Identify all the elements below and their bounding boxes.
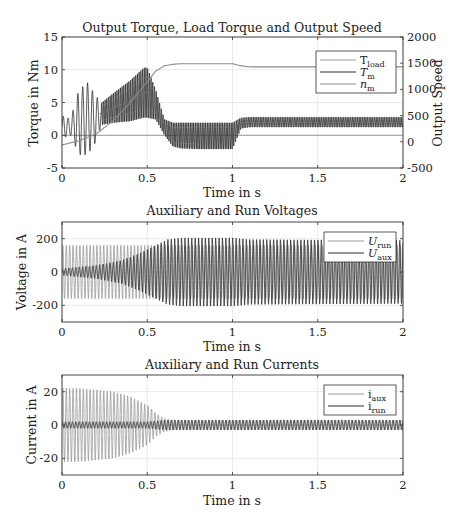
x-tick-label: 2 (399, 325, 406, 339)
y-tick-label: 0 (51, 128, 58, 142)
legend: iauxirun (324, 385, 396, 415)
x-axis-label: Time in s (203, 493, 261, 508)
y-right-tick-label: -500 (407, 161, 433, 175)
y-tick-label: -200 (32, 298, 58, 312)
x-axis-label: Time in s (203, 339, 261, 354)
x-tick-label: 1.5 (309, 171, 327, 185)
x-tick-label: 2 (399, 478, 406, 492)
y-tick-label: 20 (43, 385, 58, 399)
y-right-tick-label: 500 (407, 109, 429, 123)
x-tick-label: 0.5 (138, 171, 156, 185)
x-tick-label: 1.5 (309, 478, 327, 492)
figure: Output Torque, Load Torque and Output Sp… (0, 0, 458, 521)
current-panel: Auxiliary and Run Currents 00.511.52-200… (24, 357, 407, 508)
y-tick-label: 15 (43, 30, 58, 44)
x-tick-label: 0.5 (138, 325, 156, 339)
x-tick-label: 0 (58, 478, 65, 492)
y-tick-label: 0 (51, 418, 58, 432)
y-axis-right-label: Output Speed (430, 59, 445, 147)
y-right-tick-label: 0 (407, 135, 414, 149)
chart-title: Auxiliary and Run Voltages (145, 203, 317, 218)
chart-title: Output Torque, Load Torque and Output Sp… (82, 20, 381, 35)
x-tick-label: 1 (229, 478, 236, 492)
torque-speed-panel: Output Torque, Load Torque and Output Sp… (26, 20, 445, 200)
x-tick-label: 2 (399, 171, 406, 185)
x-tick-label: 1 (229, 171, 236, 185)
y-tick-label: -20 (39, 451, 58, 465)
y-tick-label: 0 (51, 265, 58, 279)
x-tick-label: 1 (229, 325, 236, 339)
legend: TloadTmnm (316, 51, 396, 93)
chart-title: Auxiliary and Run Currents (144, 357, 319, 372)
x-tick-label: 0 (58, 171, 65, 185)
y-axis-label: Voltage in A (14, 233, 29, 311)
x-tick-label: 1.5 (309, 325, 327, 339)
y-tick-label: 10 (43, 63, 58, 77)
x-tick-label: 0 (58, 325, 65, 339)
y-tick-label: -5 (47, 161, 58, 175)
voltage-panel: Auxiliary and Run Voltages 00.511.52-200… (14, 203, 407, 354)
y-tick-label: 5 (51, 96, 58, 110)
x-tick-label: 0.5 (138, 478, 156, 492)
y-axis-label: Torque in Nm (26, 59, 41, 146)
x-axis-label: Time in s (203, 185, 261, 200)
y-tick-label: 200 (36, 232, 58, 246)
y-right-tick-label: 2000 (407, 30, 436, 44)
y-axis-label: Current in A (24, 384, 39, 464)
legend: UrunUaux (324, 232, 396, 262)
